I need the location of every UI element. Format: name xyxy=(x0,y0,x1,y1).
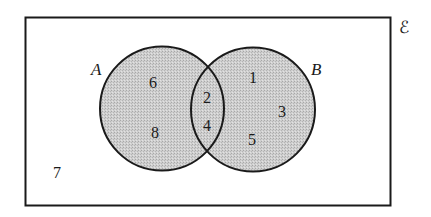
universal-set-symbol: ℰ xyxy=(399,18,409,37)
element-outside: 7 xyxy=(53,164,61,181)
venn-diagram: ℰ A B 6 8 2 4 1 3 5 7 xyxy=(0,0,431,217)
element-only-b: 3 xyxy=(278,103,286,120)
element-only-b: 5 xyxy=(248,131,256,148)
element-only-a: 6 xyxy=(149,74,157,91)
element-only-a: 8 xyxy=(151,124,159,141)
set-a-label: A xyxy=(90,60,102,79)
element-intersection: 2 xyxy=(203,89,211,106)
element-only-b: 1 xyxy=(249,69,257,86)
set-b-label: B xyxy=(311,60,322,79)
element-intersection: 4 xyxy=(203,117,211,134)
